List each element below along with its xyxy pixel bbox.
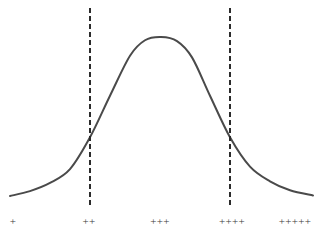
axis-label-plus-2: ++ <box>82 216 95 227</box>
distribution-plot <box>0 0 325 237</box>
axis-label-plus-4: ++++ <box>219 216 245 227</box>
axis-label-plus-5: +++++ <box>279 216 312 227</box>
plot-background <box>0 0 325 237</box>
axis-label-plus-3: +++ <box>150 216 170 227</box>
axis-label-plus-1: + <box>10 216 17 227</box>
bell-curve-figure: + ++ +++ ++++ +++++ <box>0 0 325 237</box>
